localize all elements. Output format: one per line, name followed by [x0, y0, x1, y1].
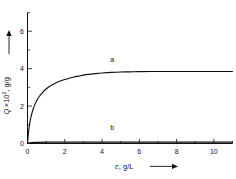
tick-labels: 02468100246 — [20, 28, 218, 155]
chart-figure: 02468100246 ab c, g/L Q ×102, g/g — [0, 0, 236, 179]
y-axis-title: Q ×102, g/g — [1, 75, 11, 114]
axis-lines — [28, 13, 233, 144]
y-axis-arrow-group — [6, 30, 11, 54]
y-tick-label: 0 — [20, 140, 24, 147]
y-tick-label: 6 — [20, 28, 24, 35]
x-axis-arrow-head — [172, 164, 178, 169]
y-tick-label: 2 — [20, 103, 24, 110]
x-tick-label: 2 — [63, 148, 67, 155]
tick-marks — [28, 13, 233, 144]
curve-label-b: b — [110, 124, 114, 131]
y-axis-arrow-head — [6, 30, 11, 36]
x-axis-title: c, g/L — [115, 162, 135, 171]
curve-label-a: a — [110, 56, 114, 63]
x-tick-label: 0 — [26, 148, 30, 155]
x-tick-label: 4 — [100, 148, 104, 155]
y-tick-label: 4 — [20, 65, 24, 72]
curve-annotations: ab — [110, 56, 114, 131]
x-tick-label: 10 — [210, 148, 218, 155]
isotherm-plot: 02468100246 ab c, g/L Q ×102, g/g — [0, 0, 236, 179]
data-curves — [28, 71, 233, 143]
curve-a — [28, 71, 233, 143]
x-tick-label: 8 — [175, 148, 179, 155]
x-tick-label: 6 — [137, 148, 141, 155]
y-axis-title-group: Q ×102, g/g — [1, 75, 11, 114]
axes — [28, 13, 233, 144]
